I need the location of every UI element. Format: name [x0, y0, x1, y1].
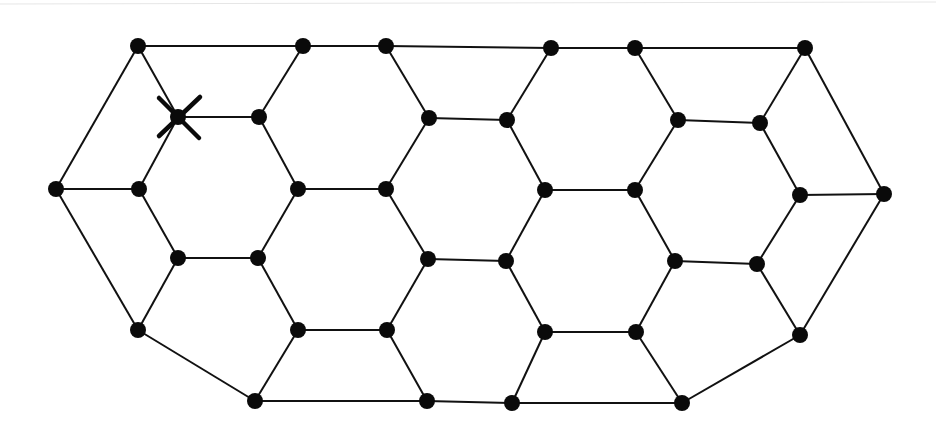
vertex-Y — [667, 253, 683, 269]
edge-A-M — [56, 46, 138, 189]
vertex-A — [130, 38, 146, 54]
vertex-S — [792, 187, 808, 203]
edge-Z-f — [757, 264, 800, 335]
edge-U-a — [138, 258, 178, 330]
vertex-e — [628, 324, 644, 340]
edge-f-j — [682, 335, 800, 403]
edge-c-h — [387, 330, 427, 401]
edge-L-S — [760, 123, 800, 195]
scan-top-edge — [0, 2, 936, 4]
vertex-P — [378, 181, 394, 197]
vertex-N — [131, 181, 147, 197]
vertex-f — [792, 327, 808, 343]
vertex-V — [250, 250, 266, 266]
edge-T-f — [800, 194, 884, 335]
vertex-K — [670, 112, 686, 128]
edge-O-V — [258, 189, 298, 258]
vertex-g — [247, 393, 263, 409]
edge-V-b — [258, 258, 298, 330]
vertex-d — [537, 324, 553, 340]
edge-d-i — [512, 332, 545, 403]
edge-Y-e — [636, 261, 675, 332]
edge-I-P — [386, 118, 429, 189]
edge-C-D — [386, 46, 551, 48]
edge-M-a — [56, 189, 138, 330]
vertex-F — [797, 40, 813, 56]
edge-a-g — [138, 330, 255, 401]
edge-S-T — [800, 194, 884, 195]
edge-E-K — [635, 48, 678, 120]
edge-Y-Z — [675, 261, 757, 264]
edge-R-Y — [635, 190, 675, 261]
vertex-M — [48, 181, 64, 197]
vertex-Z — [749, 256, 765, 272]
vertex-h — [419, 393, 435, 409]
edge-X-d — [506, 261, 545, 332]
vertex-D — [543, 40, 559, 56]
edge-h-i — [427, 401, 512, 403]
edge-W-c — [387, 259, 428, 330]
edge-A-G — [138, 46, 178, 117]
edge-b-g — [255, 330, 298, 401]
hexagonal-graph-diagram — [0, 0, 936, 429]
edge-K-L — [678, 120, 760, 123]
edge-G-N — [139, 117, 178, 189]
edge-e-j — [636, 332, 682, 403]
edge-S-Z — [757, 195, 800, 264]
graph-edges — [56, 46, 884, 403]
vertex-U — [170, 250, 186, 266]
edge-P-W — [386, 189, 428, 259]
vertex-H — [251, 109, 267, 125]
vertex-I — [421, 110, 437, 126]
edge-N-U — [139, 189, 178, 258]
vertex-T — [876, 186, 892, 202]
edge-I-J — [429, 118, 507, 120]
edge-D-J — [507, 48, 551, 120]
vertex-R — [627, 182, 643, 198]
vertex-i — [504, 395, 520, 411]
edge-W-X — [428, 259, 506, 261]
vertex-C — [378, 38, 394, 54]
vertex-X — [498, 253, 514, 269]
edge-F-T — [805, 48, 884, 194]
vertex-a — [130, 322, 146, 338]
vertex-Q — [537, 182, 553, 198]
edge-B-H — [259, 46, 303, 117]
edge-J-Q — [507, 120, 545, 190]
vertex-L — [752, 115, 768, 131]
vertex-E — [627, 40, 643, 56]
edge-H-O — [259, 117, 298, 189]
edge-Q-X — [506, 190, 545, 261]
edge-K-R — [635, 120, 678, 190]
vertex-j — [674, 395, 690, 411]
edge-F-L — [760, 48, 805, 123]
edge-C-I — [386, 46, 429, 118]
vertex-B — [295, 38, 311, 54]
vertex-O — [290, 181, 306, 197]
vertex-W — [420, 251, 436, 267]
vertex-J — [499, 112, 515, 128]
vertex-b — [290, 322, 306, 338]
vertex-c — [379, 322, 395, 338]
